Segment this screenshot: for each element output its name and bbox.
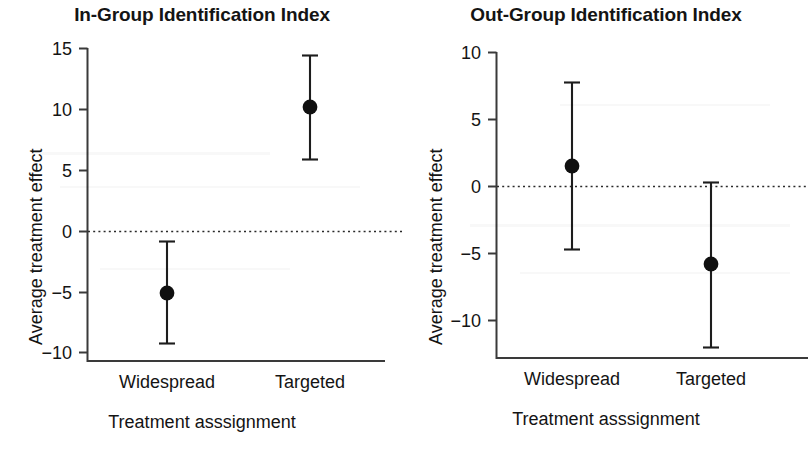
y-tick-label-0: 0 <box>62 222 72 242</box>
axis-lines-right <box>497 52 808 358</box>
y-tick-label-5: 5 <box>62 161 72 181</box>
y-tick-label-minus5: −5 <box>51 283 72 303</box>
x-axis-label-left: Treatment asssignment <box>0 412 404 433</box>
panel-in-group: In-Group Identification Index Average tr… <box>0 0 404 461</box>
error-bar-widespread-left <box>159 242 175 344</box>
panel-out-group: Out-Group Identification Index Average t… <box>404 0 808 461</box>
error-bar-widespread-right <box>564 83 580 250</box>
plot-area-in-group: 15 10 5 0 −5 −10 Widespre <box>0 0 404 461</box>
y-tick-label-10: 10 <box>52 100 72 120</box>
error-bar-targeted-right <box>703 183 719 348</box>
point-estimate-widespread-left <box>160 286 175 301</box>
x-tick-label-targeted-left: Targeted <box>275 372 345 392</box>
point-estimate-targeted-right <box>704 257 719 272</box>
y-tick-label-10: 10 <box>461 43 481 63</box>
plot-area-out-group: 10 5 0 −5 −10 Widespread <box>404 0 808 461</box>
axis-lines-left <box>88 48 386 361</box>
y-tick-label-minus10: −10 <box>450 311 481 331</box>
y-tick-label-minus10: −10 <box>41 343 72 363</box>
x-axis-label-right: Treatment asssignment <box>404 409 808 430</box>
error-bar-targeted-left <box>302 56 318 160</box>
y-tick-label-minus5: −5 <box>460 244 481 264</box>
point-estimate-targeted-left <box>303 100 318 115</box>
x-tick-label-widespread-right: Widespread <box>524 369 620 389</box>
figure-two-panel-error-bar-plot: In-Group Identification Index Average tr… <box>0 0 808 461</box>
point-estimate-widespread-right <box>565 159 580 174</box>
x-tick-label-widespread-left: Widespread <box>119 372 215 392</box>
y-tick-label-0: 0 <box>471 177 481 197</box>
y-tick-label-15: 15 <box>52 39 72 59</box>
x-tick-label-targeted-right: Targeted <box>676 369 746 389</box>
y-tick-label-5: 5 <box>471 110 481 130</box>
